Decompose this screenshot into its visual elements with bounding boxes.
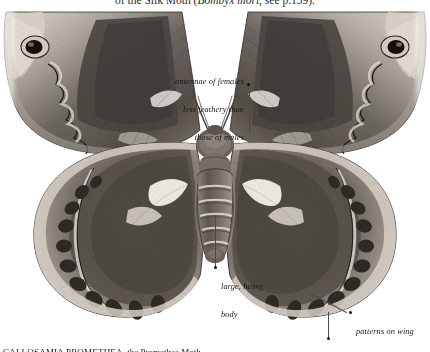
specimen-caption-species: CALLOSAMIA PROMETHEA xyxy=(3,347,123,352)
annotation-antennae-line-3: those of males xyxy=(150,133,244,142)
leader-line-wing-shape xyxy=(328,312,329,338)
specimen-caption-common: , the Promethea Moth xyxy=(123,347,201,352)
annotation-antennae-line-1: antennae of females xyxy=(150,77,244,86)
moth-specimen-image xyxy=(0,4,430,334)
annotation-wing-margins: patterns on wing margins present in both… xyxy=(356,308,430,352)
annotation-antennae-line-2: less feathery than xyxy=(150,105,244,114)
annotation-wing-shape: distinctive wing xyxy=(240,334,322,352)
field-guide-plate-page: of the Silk Moth (Bombyx mori, see p.139… xyxy=(0,0,430,352)
leader-line-body xyxy=(215,215,216,267)
annotation-antennae: antennae of females less feathery than t… xyxy=(150,58,244,161)
annotation-body-line-2: body xyxy=(221,310,301,319)
annotation-body: large, heavy body xyxy=(221,263,301,338)
annotation-wing-margins-line-1: patterns on wing xyxy=(356,327,430,336)
leader-dot-wing-shape xyxy=(327,337,330,340)
leader-line-antennae xyxy=(249,86,250,133)
leader-dot-body xyxy=(214,266,217,269)
leader-dot-wing-margins xyxy=(349,311,352,314)
specimen-caption: CALLOSAMIA PROMETHEA, the Promethea Moth xyxy=(3,347,201,352)
annotation-body-line-1: large, heavy xyxy=(221,282,301,291)
